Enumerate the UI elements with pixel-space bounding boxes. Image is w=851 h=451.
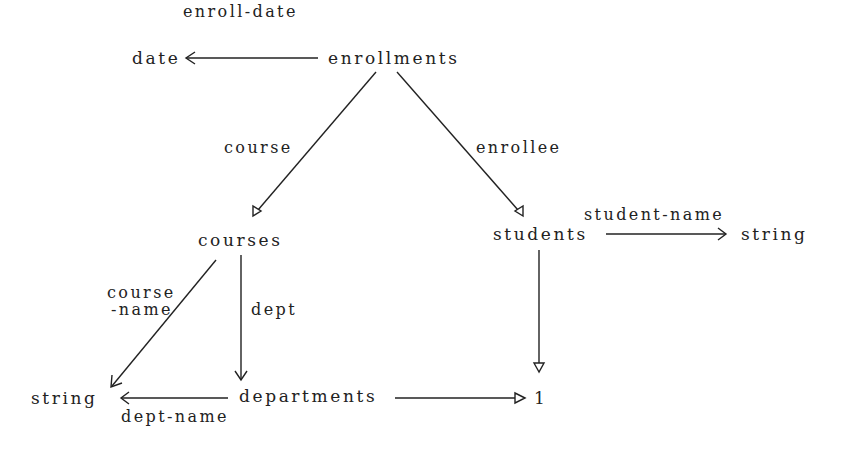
edge-students-one [534, 250, 544, 372]
node-string-right: string [741, 226, 808, 243]
label-dept-name: dept-name [121, 409, 229, 425]
schema-diagram: enrollments date courses students string… [0, 0, 851, 451]
edge-course-name [111, 260, 216, 387]
label-student-name: student-name [584, 207, 724, 223]
edge-enroll-date [186, 52, 318, 64]
edge-dept [235, 255, 247, 380]
node-departments: departments [239, 388, 377, 405]
label-course-name-line1: course [107, 285, 176, 301]
label-course: course [224, 140, 293, 156]
node-one: 1 [534, 390, 547, 407]
label-enroll-date: enroll-date [183, 4, 298, 20]
edge-student-name [606, 228, 726, 240]
node-students: students [493, 226, 588, 243]
edge-departments-one [395, 393, 525, 403]
edge-dept-name [121, 392, 228, 404]
node-date: date [132, 50, 180, 67]
node-courses: courses [198, 232, 283, 249]
label-course-name-line2: -name [111, 302, 173, 318]
node-string-left: string [31, 390, 98, 407]
label-enrollee: enrollee [476, 140, 561, 156]
label-dept: dept [251, 302, 297, 318]
node-enrollments: enrollments [328, 50, 460, 67]
